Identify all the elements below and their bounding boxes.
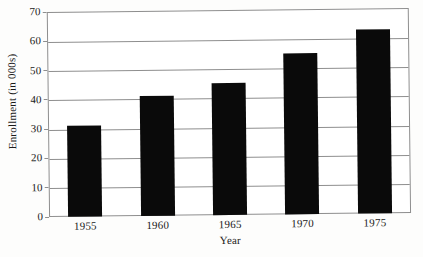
x-axis-tick-label: 1970 [272,217,332,231]
chart-figure: 010203040506070 Enrollment (in 000s) 195… [0,0,423,257]
bar-1975 [356,29,392,214]
y-axis-tick-label: 10 [3,182,43,193]
bar-1960 [139,96,174,216]
x-axis-tick-label: 1965 [200,218,260,232]
y-axis-tick-label: 70 [1,6,41,17]
bar-1955 [67,126,102,217]
x-axis-tick-label: 1960 [128,218,188,232]
y-axis-title: Enrollment (in 000s) [5,26,19,176]
x-axis-tick-label: 1975 [345,216,405,230]
bar-1965 [212,83,247,215]
x-axis-tick-label: 1955 [55,219,115,233]
y-axis-tick-label: 0 [3,211,43,222]
x-axis-title: Year [49,232,411,249]
bar-series [47,8,411,217]
bar-1970 [284,53,320,214]
chart-canvas: 010203040506070 Enrollment (in 000s) 195… [0,0,423,257]
